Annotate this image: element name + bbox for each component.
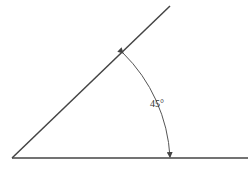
angle-label: 45°	[150, 98, 164, 109]
angle-diagram: 45°	[0, 0, 251, 172]
